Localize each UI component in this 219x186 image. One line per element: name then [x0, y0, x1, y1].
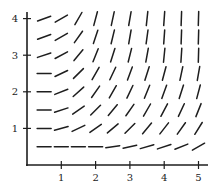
- x-tick-label: 3: [127, 172, 133, 183]
- slope-segment: [74, 50, 83, 61]
- slope-segment: [55, 89, 68, 94]
- slope-segment: [106, 146, 120, 148]
- slope-segment: [144, 85, 149, 98]
- slope-segment: [125, 124, 135, 134]
- slope-segment: [178, 104, 184, 117]
- y-tick-label: 1: [12, 123, 18, 134]
- slope-segment: [126, 104, 134, 115]
- slope-segment: [128, 67, 133, 80]
- x-tick-label: 4: [161, 172, 167, 183]
- x-tick-label: 2: [92, 172, 98, 183]
- slope-segment: [93, 49, 98, 62]
- slope-segment: [110, 67, 116, 80]
- slope-segment: [92, 67, 99, 79]
- slope-segment: [144, 104, 151, 116]
- slope-segment: [158, 145, 171, 149]
- slope-segment: [55, 71, 68, 77]
- slope-segment: [55, 52, 67, 59]
- slope-segment: [55, 127, 69, 131]
- slope-segment: [94, 12, 98, 26]
- slope-segment: [143, 123, 152, 134]
- slope-segment: [128, 48, 131, 62]
- slope-segment: [196, 104, 201, 117]
- slope-segment: [179, 85, 183, 98]
- slope-segment: [55, 33, 67, 40]
- slope-segment: [140, 145, 154, 149]
- x-tick-label: 1: [58, 172, 64, 183]
- slope-segment: [91, 105, 101, 115]
- slope-segment: [127, 86, 133, 99]
- y-tick-label: 2: [12, 86, 18, 97]
- slope-segment: [73, 106, 85, 114]
- slope-segment: [181, 12, 182, 26]
- slope-segment: [90, 124, 101, 132]
- slope-segment: [74, 31, 82, 42]
- slope-segment: [55, 15, 67, 22]
- slope-segment: [38, 53, 51, 57]
- slope-segment: [38, 16, 51, 21]
- slope-segment: [129, 30, 131, 44]
- slope-segment: [55, 108, 68, 112]
- slope-segment: [175, 144, 188, 149]
- slope-segment: [162, 85, 167, 98]
- slope-segment: [197, 85, 201, 99]
- x-tick-label: 5: [195, 172, 201, 183]
- y-tick-label: 3: [12, 50, 18, 61]
- slope-segment: [160, 123, 169, 134]
- slope-segment: [72, 125, 85, 131]
- slope-segment: [74, 69, 84, 79]
- y-tick-label: 4: [12, 13, 18, 24]
- slope-segment: [109, 86, 116, 98]
- slope-segment: [123, 145, 137, 148]
- slope-segment: [111, 30, 114, 44]
- slope-segment: [145, 67, 149, 80]
- slope-segment: [73, 87, 84, 96]
- slope-segment: [111, 49, 115, 62]
- slope-segment: [111, 12, 114, 26]
- slope-segment: [180, 67, 183, 81]
- slope-segment: [164, 30, 165, 44]
- slope-segment: [192, 143, 204, 150]
- slope-segment: [164, 12, 165, 26]
- slope-segment: [146, 12, 148, 26]
- slope-segment: [181, 48, 182, 62]
- slope-field-figure: 123451234: [0, 0, 219, 186]
- slope-segment: [146, 48, 149, 62]
- slope-segment: [195, 123, 202, 135]
- slope-field-plot: 123451234: [0, 0, 219, 186]
- slope-segment: [181, 30, 182, 44]
- slope-segment: [197, 67, 199, 81]
- slope-segment: [129, 12, 131, 26]
- slope-segment: [164, 48, 165, 62]
- slope-segment: [38, 35, 51, 40]
- slope-segments: [37, 12, 205, 151]
- slope-segment: [108, 105, 117, 116]
- slope-segment: [107, 124, 118, 133]
- slope-segment: [93, 30, 97, 43]
- slope-segment: [162, 67, 166, 81]
- slope-segment: [92, 86, 100, 97]
- slope-segment: [161, 104, 168, 116]
- slope-segment: [177, 123, 185, 134]
- slope-segment: [146, 30, 148, 44]
- slope-segment: [75, 13, 82, 25]
